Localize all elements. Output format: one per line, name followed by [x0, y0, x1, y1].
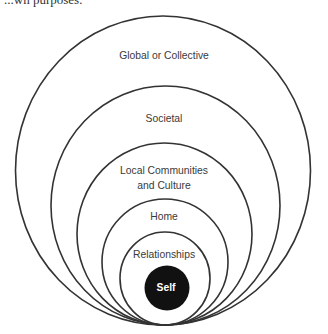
label-societal: Societal [16, 111, 311, 126]
label-self: Self [18, 280, 313, 295]
label-global: Global or Collective [16, 48, 311, 63]
label-home: Home [16, 209, 311, 224]
label-local-line1: Local Communities [16, 163, 311, 178]
label-relationships: Relationships [16, 247, 311, 262]
label-local-line2: and Culture [16, 178, 311, 193]
